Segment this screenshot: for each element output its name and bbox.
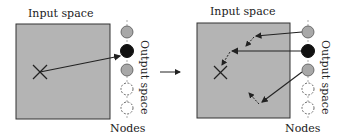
node-inactive	[302, 83, 314, 95]
panel-before: Input space Nodes Output space	[16, 7, 151, 135]
node-winner	[302, 45, 315, 58]
node-neighbor	[302, 26, 314, 38]
input-space-box	[197, 23, 290, 118]
node-neighbor	[302, 64, 314, 76]
nodes-label: Nodes	[110, 122, 146, 135]
som-diagram: Input space Nodes Output space Input spa…	[0, 0, 344, 140]
node-neighbor	[121, 26, 133, 38]
node-inactive	[302, 102, 314, 114]
input-space-box	[16, 24, 110, 119]
input-space-label: Input space	[210, 5, 275, 18]
node-neighbor	[121, 64, 133, 76]
input-space-label: Input space	[28, 7, 93, 20]
node-winner	[121, 45, 134, 58]
node-inactive	[121, 83, 133, 95]
output-space-label: Output space	[319, 40, 332, 114]
node-inactive	[121, 102, 133, 114]
nodes-label: Nodes	[285, 122, 321, 135]
panel-after: Input space Nodes Output space	[197, 5, 332, 135]
output-space-label: Output space	[138, 40, 151, 114]
